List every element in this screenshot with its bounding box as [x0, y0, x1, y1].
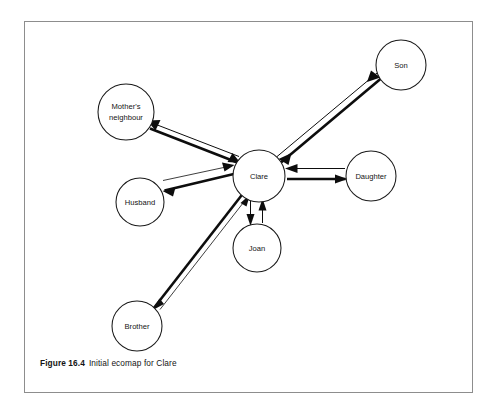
edge-clare-mother: [147, 120, 241, 164]
edge-clare-joan: [247, 199, 267, 227]
node-daughter[interactable]: Daughter: [346, 151, 396, 201]
ecomap-diagram: Clare Son Mother's neighbour Daughter Hu…: [0, 0, 496, 414]
arrowhead-to-clare: [285, 164, 298, 173]
figure-caption-title: Initial ecomap for Clare: [89, 358, 177, 368]
figure-container: Clare Son Mother's neighbour Daughter Hu…: [0, 0, 496, 414]
node-son-label: Son: [394, 61, 408, 70]
node-husband-label: Husband: [125, 198, 155, 207]
node-mothers-neighbour-label-line1: Mother's: [112, 102, 141, 111]
node-brother[interactable]: Brother: [112, 301, 162, 351]
node-clare-label: Clare: [250, 172, 268, 181]
node-son[interactable]: Son: [376, 40, 426, 90]
node-mothers-neighbour[interactable]: Mother's neighbour: [98, 84, 154, 140]
node-daughter-label: Daughter: [355, 172, 387, 181]
figure-caption-number: Figure 16.4: [40, 358, 85, 368]
edge-clare-daughter: [285, 164, 348, 184]
figure-caption: Figure 16.4Initial ecomap for Clare: [40, 358, 177, 368]
node-husband[interactable]: Husband: [116, 178, 164, 226]
node-brother-label: Brother: [125, 322, 150, 331]
edge-clare-son: [277, 71, 382, 166]
node-joan[interactable]: Joan: [233, 224, 281, 272]
node-mothers-neighbour-label-line2: neighbour: [109, 113, 143, 122]
node-joan-label: Joan: [249, 244, 265, 253]
arrowhead-to-clare: [222, 163, 235, 172]
node-clare[interactable]: Clare: [233, 150, 285, 202]
edge-clare-husband: [163, 163, 239, 197]
